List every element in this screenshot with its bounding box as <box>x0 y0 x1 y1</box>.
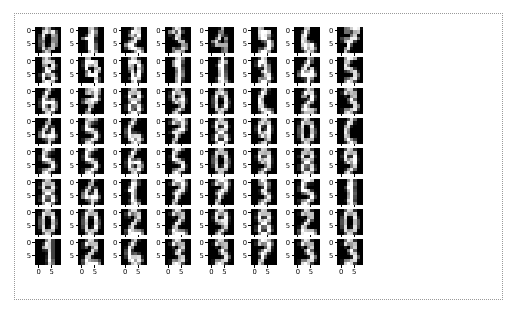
x-tick-mark <box>51 144 52 147</box>
digit-image-cell: 05 <box>165 209 191 235</box>
y-tick-label: 0 <box>243 240 247 247</box>
digit-image <box>251 209 277 235</box>
y-tick-label: 0 <box>113 240 117 247</box>
y-tick-mark <box>335 91 338 92</box>
x-tick-label: 5 <box>222 269 226 276</box>
x-tick-mark <box>38 144 39 147</box>
y-tick-mark <box>32 73 35 74</box>
x-tick-mark <box>310 83 311 86</box>
y-tick-mark <box>335 212 338 213</box>
y-tick-label: 5 <box>329 102 333 109</box>
digit-image-cell: 05 <box>121 57 147 83</box>
x-tick-mark <box>267 83 268 86</box>
y-tick-label: 0 <box>27 59 31 66</box>
y-tick-label: 5 <box>329 193 333 200</box>
digit-image-cell: 05 <box>78 57 104 83</box>
y-tick-mark <box>248 164 251 165</box>
digit-image-cell: 05 <box>251 179 277 205</box>
x-tick-mark <box>310 144 311 147</box>
y-tick-mark <box>205 121 208 122</box>
digit-image <box>165 179 191 205</box>
x-tick-mark <box>267 114 268 117</box>
y-tick-label: 0 <box>156 240 160 247</box>
x-tick-mark <box>38 174 39 177</box>
digit-image <box>165 118 191 144</box>
x-tick-mark <box>310 114 311 117</box>
y-tick-mark <box>292 43 295 44</box>
y-tick-mark <box>162 73 165 74</box>
x-tick-mark <box>224 53 225 56</box>
x-tick-mark <box>254 114 255 117</box>
digit-image-cell: 05 <box>121 27 147 53</box>
y-tick-label: 0 <box>156 28 160 35</box>
digit-image <box>208 27 234 53</box>
y-tick-label: 5 <box>329 41 333 48</box>
y-tick-label: 0 <box>243 180 247 187</box>
y-tick-label: 5 <box>286 223 290 230</box>
x-tick-mark <box>267 53 268 56</box>
x-tick-mark <box>51 114 52 117</box>
y-tick-label: 0 <box>199 210 203 217</box>
y-tick-label: 0 <box>70 150 74 157</box>
digit-image-cell: 05 <box>35 179 61 205</box>
digit-image-cell: 05 <box>121 88 147 114</box>
x-tick-mark <box>297 174 298 177</box>
y-tick-label: 0 <box>286 150 290 157</box>
x-tick-mark <box>94 235 95 238</box>
y-tick-label: 5 <box>27 223 31 230</box>
y-tick-mark <box>162 242 165 243</box>
y-tick-label: 5 <box>243 253 247 260</box>
digit-image <box>294 209 320 235</box>
y-tick-mark <box>119 242 122 243</box>
digit-image <box>337 88 363 114</box>
y-tick-label: 0 <box>113 89 117 96</box>
x-tick-mark <box>138 205 139 208</box>
x-tick-mark <box>94 174 95 177</box>
x-tick-mark <box>267 235 268 238</box>
x-tick-mark <box>138 114 139 117</box>
y-tick-mark <box>292 164 295 165</box>
y-tick-mark <box>292 195 295 196</box>
x-tick-mark <box>51 235 52 238</box>
y-tick-label: 5 <box>329 132 333 139</box>
digit-image <box>165 239 191 265</box>
y-tick-label: 0 <box>113 119 117 126</box>
y-tick-mark <box>119 195 122 196</box>
x-tick-mark <box>168 53 169 56</box>
digit-image <box>35 57 61 83</box>
y-tick-mark <box>292 242 295 243</box>
digit-image-cell: 05 <box>121 148 147 174</box>
x-tick-label: 0 <box>253 269 257 276</box>
y-tick-mark <box>76 60 79 61</box>
y-tick-label: 5 <box>156 72 160 79</box>
x-tick-mark <box>224 174 225 177</box>
y-tick-label: 0 <box>70 89 74 96</box>
y-tick-label: 0 <box>286 119 290 126</box>
x-tick-mark <box>168 205 169 208</box>
x-tick-mark <box>267 144 268 147</box>
x-tick-mark <box>51 83 52 86</box>
y-tick-label: 0 <box>156 59 160 66</box>
y-tick-mark <box>292 151 295 152</box>
digit-image <box>165 27 191 53</box>
x-tick-mark <box>341 83 342 86</box>
y-tick-mark <box>119 151 122 152</box>
x-tick-mark <box>138 144 139 147</box>
x-tick-mark <box>94 53 95 56</box>
x-tick-mark <box>211 235 212 238</box>
y-tick-label: 0 <box>329 210 333 217</box>
digit-image-cell: 05 <box>121 118 147 144</box>
x-tick-mark <box>211 114 212 117</box>
y-tick-label: 0 <box>156 119 160 126</box>
x-tick-mark <box>125 53 126 56</box>
y-tick-label: 0 <box>27 28 31 35</box>
y-tick-mark <box>76 151 79 152</box>
y-tick-mark <box>119 134 122 135</box>
y-tick-label: 0 <box>243 119 247 126</box>
x-tick-label: 5 <box>352 269 356 276</box>
y-tick-label: 5 <box>199 72 203 79</box>
y-tick-label: 5 <box>243 102 247 109</box>
x-tick-mark <box>38 53 39 56</box>
digit-image-cell: 05 <box>78 179 104 205</box>
y-tick-label: 5 <box>113 253 117 260</box>
